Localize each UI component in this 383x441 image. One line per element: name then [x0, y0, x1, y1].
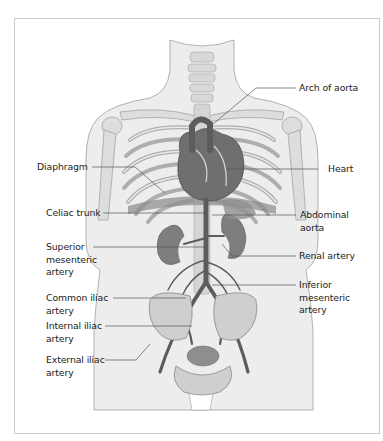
- label-renal-artery: Renal artery: [299, 250, 355, 263]
- label-diaphragm: Diaphragm: [37, 161, 88, 174]
- bladder: [187, 346, 219, 366]
- label-common-iliac-artery: Common iliac artery: [46, 292, 108, 317]
- label-abdominal-aorta: Abdominal aorta: [300, 209, 349, 234]
- label-arch-of-aorta: Arch of aorta: [299, 82, 358, 95]
- label-heart: Heart: [328, 163, 353, 176]
- label-external-iliac-artery: External iliac artery: [46, 354, 105, 379]
- label-celiac-trunk: Celiac trunk: [46, 207, 101, 220]
- cervical-spine: [188, 52, 216, 102]
- label-inferior-mesenteric-artery: Inferior mesenteric artery: [299, 279, 350, 317]
- label-internal-iliac-artery: Internal iliac artery: [46, 320, 102, 345]
- label-superior-mesenteric-artery: Superior mesenteric artery: [46, 241, 97, 279]
